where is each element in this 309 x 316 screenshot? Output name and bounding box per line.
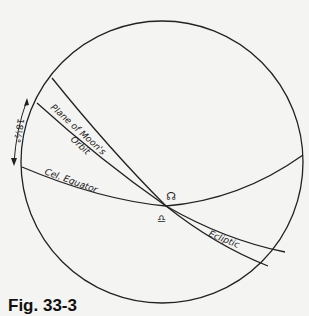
ascending-node-symbol: ☊ (166, 190, 176, 203)
angle-label: 18½° (12, 118, 26, 144)
arrow-down-icon (11, 158, 17, 166)
libra-symbol: ♎︎ (157, 213, 166, 224)
equator-label: Cel. Equator (43, 166, 100, 195)
figure-caption: Fig. 33-3 (8, 296, 77, 316)
ecliptic-label: Ecliptic (207, 229, 241, 250)
sphere-outline (21, 21, 303, 303)
arrow-up-icon (24, 98, 29, 106)
